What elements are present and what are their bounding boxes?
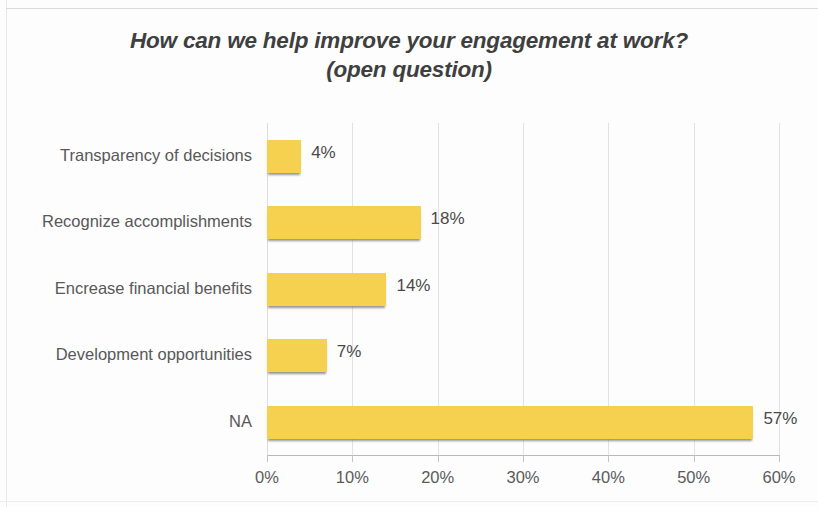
- category-label: Encrease financial benefits: [2, 279, 252, 298]
- bar-row: 14%: [267, 256, 779, 322]
- x-tick-label: 0%: [255, 468, 279, 487]
- category-label: Transparency of decisions: [2, 146, 252, 165]
- x-tick-label: 40%: [592, 468, 625, 487]
- x-tick-label: 20%: [421, 468, 454, 487]
- bar-row: 57%: [267, 389, 779, 455]
- x-tick-label: 60%: [762, 468, 795, 487]
- chart-title-line1: How can we help improve your engagement …: [130, 28, 688, 53]
- x-tick-mark: [523, 455, 524, 462]
- category-axis-labels: Transparency of decisionsRecognize accom…: [0, 123, 252, 455]
- bar-value-label: 14%: [396, 276, 430, 296]
- x-tick-mark: [779, 455, 780, 462]
- x-tick-mark: [352, 455, 353, 462]
- x-tick-mark: [694, 455, 695, 462]
- bar: [267, 339, 327, 372]
- bar-value-label: 7%: [337, 342, 362, 362]
- bar-row: 18%: [267, 189, 779, 255]
- bar-value-label: 18%: [431, 209, 465, 229]
- chart-title: How can we help improve your engagement …: [0, 26, 818, 84]
- x-tick-mark: [438, 455, 439, 462]
- scan-edge-top: [6, 8, 818, 9]
- category-label: Recognize accomplishments: [2, 212, 252, 231]
- x-axis-tick-labels: 0%10%20%30%40%50%60%: [267, 468, 779, 494]
- x-tick-mark: [267, 455, 268, 462]
- chart-title-line2: (open question): [0, 55, 818, 84]
- bar-row: 7%: [267, 322, 779, 388]
- category-label: NA: [2, 412, 252, 431]
- bar: [267, 206, 421, 239]
- category-label: Development opportunities: [2, 345, 252, 364]
- bar: [267, 273, 386, 306]
- bar-value-label: 4%: [311, 143, 336, 163]
- bar-value-label: 57%: [763, 409, 797, 429]
- bar: [267, 140, 301, 173]
- x-tick-mark: [608, 455, 609, 462]
- x-tick-label: 10%: [336, 468, 369, 487]
- scan-edge-bottom: [0, 501, 818, 502]
- bar: [267, 406, 753, 439]
- x-tick-label: 30%: [506, 468, 539, 487]
- gridline-60%: [779, 123, 780, 455]
- chart-container: How can we help improve your engagement …: [0, 0, 818, 507]
- x-tick-label: 50%: [677, 468, 710, 487]
- plot-area: 4%18%14%7%57%: [267, 123, 779, 455]
- bar-row: 4%: [267, 123, 779, 189]
